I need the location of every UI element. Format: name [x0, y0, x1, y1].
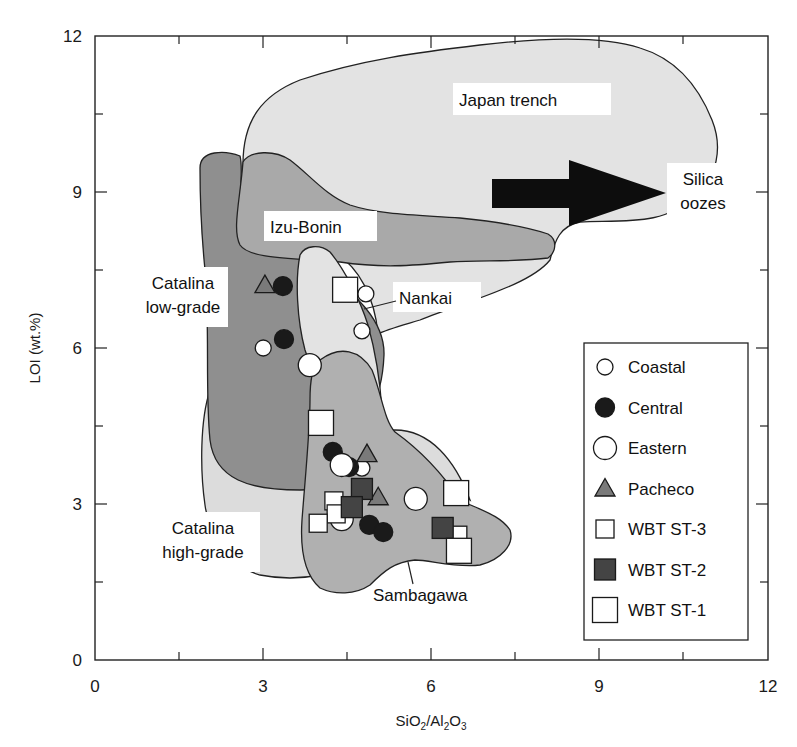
y-axis-title: LOI (wt.%) — [26, 313, 43, 384]
label-silica-oozes-1: Silica — [683, 170, 724, 189]
legend-marker-wbt-st-2-icon — [595, 559, 616, 580]
x-tick-label: 3 — [258, 677, 267, 696]
data-point-wbt-st-2 — [341, 497, 362, 518]
label-japan-trench: Japan trench — [459, 91, 557, 110]
legend-label-wbt-st-2: WBT ST-2 — [628, 561, 706, 580]
legend-marker-wbt-st-3-icon — [596, 520, 614, 538]
sambagawa-leader-line — [408, 562, 413, 584]
data-point-eastern — [298, 354, 321, 377]
data-point-wbt-st-1 — [444, 481, 469, 506]
x-tick-label: 9 — [594, 677, 603, 696]
legend-label-wbt-st-1: WBT ST-1 — [628, 601, 706, 620]
legend-label-central: Central — [628, 399, 683, 418]
y-tick-label: 12 — [63, 27, 82, 46]
legend-label-coastal: Coastal — [628, 358, 686, 377]
x-tick-label: 12 — [759, 677, 778, 696]
data-point-wbt-st-1 — [333, 277, 358, 302]
x-tick-label: 6 — [426, 677, 435, 696]
label-catalina-high-grade-2: high-grade — [162, 543, 243, 562]
data-point-eastern — [404, 487, 427, 510]
data-point-central — [273, 277, 292, 296]
legend-label-wbt-st-3: WBT ST-3 — [628, 520, 706, 539]
x-axis-title: SiO2/Al2O3 — [396, 712, 467, 732]
y-tick-label: 9 — [73, 183, 82, 202]
label-catalina-low-grade-1: Catalina — [152, 274, 215, 293]
legend-label-pacheco: Pacheco — [628, 480, 694, 499]
label-catalina-low-grade-2: low-grade — [146, 298, 221, 317]
legend-label-eastern: Eastern — [628, 439, 687, 458]
label-nankai: Nankai — [399, 289, 452, 308]
data-point-wbt-st-2 — [432, 517, 453, 538]
data-point-eastern — [330, 454, 353, 477]
legend-marker-wbt-st-1-icon — [593, 598, 618, 623]
label-silica-oozes-2: oozes — [680, 194, 725, 213]
y-tick-label: 3 — [73, 495, 82, 514]
label-catalina-high-grade-1: Catalina — [172, 519, 235, 538]
data-point-wbt-st-1 — [309, 410, 334, 435]
legend-marker-central-icon — [596, 398, 615, 417]
y-tick-label: 6 — [73, 339, 82, 358]
chart-canvas: 0 3 6 9 12 0 3 6 9 12 SiO2/Al2O3 LOI (wt… — [0, 0, 797, 747]
data-point-central — [374, 523, 393, 542]
data-point-coastal — [358, 286, 374, 302]
data-point-wbt-st-1 — [446, 538, 471, 563]
legend-marker-coastal-icon — [597, 359, 613, 375]
x-tick-labels: 0 3 6 9 12 — [90, 677, 777, 696]
legend: CoastalCentralEasternPachecoWBT ST-3WBT … — [584, 343, 748, 640]
x-tick-label: 0 — [90, 677, 99, 696]
data-point-coastal — [255, 340, 271, 356]
label-izu-bonin: Izu-Bonin — [270, 218, 342, 237]
y-tick-labels: 0 3 6 9 12 — [63, 27, 82, 670]
data-point-wbt-st-3 — [309, 514, 327, 532]
y-tick-label: 0 — [73, 651, 82, 670]
data-point-central — [274, 330, 293, 349]
legend-marker-eastern-icon — [594, 437, 617, 460]
label-sambagawa: Sambagawa — [373, 586, 468, 605]
data-point-coastal — [354, 323, 370, 339]
